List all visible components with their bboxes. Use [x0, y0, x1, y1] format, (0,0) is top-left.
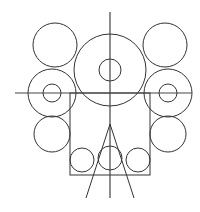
diagram-svg [0, 0, 200, 212]
triangle-left-leg [86, 124, 110, 198]
circle-bottom-left [70, 148, 94, 172]
circle-top-right [143, 23, 187, 67]
circle-lower-right [150, 116, 186, 152]
circle-lower-left [34, 116, 70, 152]
triangle-right-leg [110, 124, 134, 198]
circle-bottom-right [126, 148, 150, 172]
circle-top-left [33, 23, 77, 67]
geometric-diagram [0, 0, 200, 212]
